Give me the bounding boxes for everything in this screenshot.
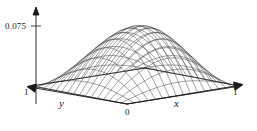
x-axis-name-label: x bbox=[174, 98, 179, 109]
y-axis-line bbox=[35, 88, 127, 104]
z-axis-arrowhead bbox=[33, 7, 39, 15]
surface-boundary-edge bbox=[145, 68, 240, 86]
mesh-line-v bbox=[53, 58, 148, 101]
y-axis-name-label: y bbox=[59, 98, 64, 109]
y-axis-end-label: 1 bbox=[24, 88, 29, 97]
mesh-line-v bbox=[89, 26, 184, 95]
surface-plot-figure: 0.075 1 1 0 y x bbox=[0, 0, 257, 131]
mesh-line-v bbox=[39, 81, 134, 103]
axes-group bbox=[27, 7, 243, 104]
origin-label: 0 bbox=[125, 108, 130, 117]
mesh-line-u bbox=[85, 28, 198, 96]
z-axis-tick-label: 0.075 bbox=[5, 22, 26, 31]
surface-boundary-edge bbox=[32, 68, 145, 86]
mesh-line-v bbox=[110, 32, 205, 91]
mesh-line-v bbox=[131, 56, 226, 89]
x-axis-end-label: 1 bbox=[233, 88, 238, 97]
mesh-line-v bbox=[124, 47, 219, 90]
mesh-line-v bbox=[96, 26, 191, 94]
